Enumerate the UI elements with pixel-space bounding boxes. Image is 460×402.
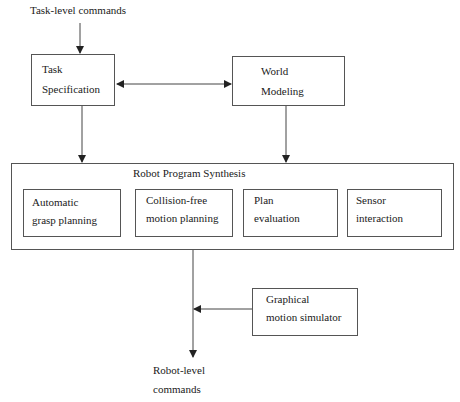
- task-specification-box: Task Specification: [31, 54, 115, 106]
- robot-level-commands-line1: Robot-level: [153, 364, 205, 377]
- module-motion-planning: Collision-free motion planning: [135, 189, 233, 237]
- world-modeling-line1: World: [261, 65, 288, 78]
- module-line1: Automatic: [32, 196, 78, 209]
- module-line2: evaluation: [254, 212, 300, 225]
- task-specification-line2: Specification: [42, 83, 100, 96]
- graphical-simulator-box: Graphical motion simulator: [252, 288, 358, 336]
- module-line1: Collision-free: [146, 194, 207, 207]
- module-sensor-interaction: Sensor interaction: [347, 189, 442, 237]
- world-modeling-box: World Modeling: [232, 56, 345, 106]
- module-line2: interaction: [356, 212, 403, 225]
- module-line2: grasp planning: [32, 214, 97, 227]
- simulator-line2: motion simulator: [266, 311, 341, 324]
- world-modeling-line2: Modeling: [261, 85, 304, 98]
- synthesis-title: Robot Program Synthesis: [133, 167, 245, 180]
- robot-program-synthesis-box: Robot Program Synthesis Automatic grasp …: [11, 163, 454, 250]
- module-line2: motion planning: [146, 212, 218, 225]
- module-line1: Plan: [254, 194, 274, 207]
- robot-level-commands-line2: commands: [153, 383, 201, 396]
- module-grasp-planning: Automatic grasp planning: [23, 189, 121, 237]
- simulator-line1: Graphical: [266, 293, 309, 306]
- task-level-commands-label: Task-level commands: [30, 4, 126, 17]
- module-line1: Sensor: [356, 194, 386, 207]
- task-specification-line1: Task: [42, 63, 63, 76]
- module-plan-evaluation: Plan evaluation: [243, 189, 338, 237]
